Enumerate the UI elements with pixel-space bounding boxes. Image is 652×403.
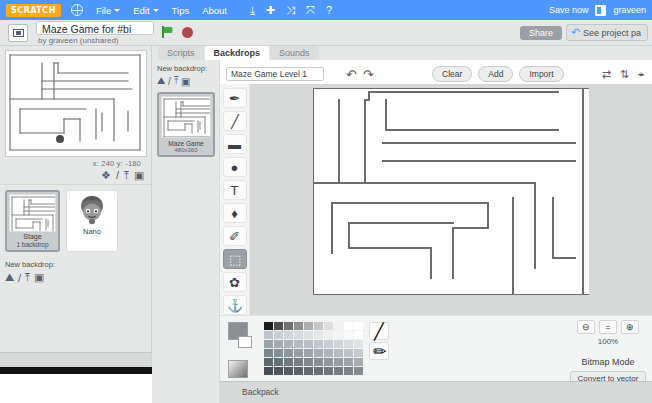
camera-backdrop-icon[interactable]: ▣ — [181, 76, 190, 87]
color-swatch[interactable] — [304, 340, 313, 348]
color-swatch[interactable] — [354, 358, 363, 366]
color-swatch[interactable] — [354, 340, 363, 348]
color-swatch[interactable] — [334, 331, 343, 339]
color-swatch[interactable] — [324, 358, 333, 366]
color-swatch[interactable] — [284, 349, 293, 357]
backdrop-library-icon[interactable]: ⛰ — [157, 75, 165, 87]
upload-backdrop-icon[interactable]: ⤒ — [25, 271, 30, 284]
color-swatch[interactable] — [344, 367, 353, 375]
color-swatch[interactable] — [304, 349, 313, 357]
menu-item-file[interactable]: File — [96, 5, 120, 16]
download-icon[interactable]: ⤓ — [250, 5, 255, 16]
shrink-icon[interactable]: ⤨ — [286, 5, 295, 16]
color-swatch[interactable] — [274, 358, 283, 366]
color-swatch[interactable] — [274, 322, 283, 330]
color-swatch[interactable] — [294, 367, 303, 375]
add-icon[interactable]: ✚ — [266, 5, 275, 16]
color-swatch[interactable] — [274, 331, 283, 339]
ellipse-tool[interactable]: ● — [223, 157, 247, 177]
backdrop-library-icon[interactable]: ⛰ — [5, 271, 14, 284]
tab-scripts[interactable]: Scripts — [158, 46, 204, 60]
color-swatch[interactable] — [304, 322, 313, 330]
backpack-bar[interactable]: Backpack — [220, 381, 652, 403]
see-inside-icon[interactable] — [8, 24, 28, 42]
color-swatch[interactable] — [324, 322, 333, 330]
line-tool[interactable]: ╱ — [223, 111, 247, 131]
costume-name-input[interactable]: Maze Game Level 1 — [226, 67, 324, 81]
color-swatch[interactable] — [304, 331, 313, 339]
color-swatch[interactable] — [304, 358, 313, 366]
color-swatch[interactable] — [284, 331, 293, 339]
new-sprite-icon[interactable]: ❖ — [101, 170, 111, 181]
user-avatar-icon[interactable] — [595, 5, 606, 16]
color-swatch[interactable] — [334, 358, 343, 366]
paint-sprite-icon[interactable]: / — [116, 170, 119, 181]
color-swatch[interactable] — [264, 340, 273, 348]
paint-backdrop-icon[interactable]: / — [168, 76, 171, 87]
green-flag-icon[interactable] — [161, 26, 174, 39]
color-swatch[interactable] — [274, 340, 283, 348]
menu-item-edit[interactable]: Edit — [133, 5, 158, 16]
color-swatch[interactable] — [344, 322, 353, 330]
color-swatch[interactable] — [264, 367, 273, 375]
stamp-tool[interactable]: ⚓ — [223, 295, 247, 315]
background-color-swatch[interactable] — [238, 336, 252, 348]
color-swatch[interactable] — [314, 331, 323, 339]
stage[interactable] — [5, 50, 147, 157]
color-swatch[interactable] — [284, 322, 293, 330]
zoom-reset-icon[interactable]: = — [599, 320, 617, 334]
color-swatch[interactable] — [284, 358, 293, 366]
set-center-icon[interactable]: ⌖ — [638, 68, 644, 81]
color-swatch[interactable] — [284, 340, 293, 348]
undo-icon[interactable]: ↶ — [346, 68, 357, 81]
fill-tool[interactable]: ♦ — [223, 203, 247, 223]
color-swatch[interactable] — [324, 349, 333, 357]
share-button[interactable]: Share — [520, 26, 562, 40]
help-icon[interactable]: ? — [326, 5, 332, 16]
menu-item-tips[interactable]: Tips — [172, 5, 190, 16]
project-title-input[interactable]: Maze Game for #bi — [36, 21, 154, 35]
color-swatch[interactable] — [344, 331, 353, 339]
color-swatch[interactable] — [304, 367, 313, 375]
color-swatch[interactable] — [314, 340, 323, 348]
color-swatch[interactable] — [314, 358, 323, 366]
color-swatch[interactable] — [334, 340, 343, 348]
color-swatch[interactable] — [324, 367, 333, 375]
color-swatch[interactable] — [294, 340, 303, 348]
menu-item-about[interactable]: About — [202, 5, 227, 16]
color-swatch[interactable] — [284, 367, 293, 375]
color-swatch[interactable] — [324, 340, 333, 348]
color-swatch[interactable] — [294, 349, 303, 357]
upload-backdrop-icon[interactable]: ⤒ — [174, 75, 178, 87]
color-swatch[interactable] — [294, 322, 303, 330]
text-tool[interactable]: T — [223, 180, 247, 200]
color-swatch[interactable] — [334, 322, 343, 330]
clear-button[interactable]: Clear — [432, 66, 472, 82]
line-color-icon[interactable]: ╱ — [369, 322, 389, 340]
save-now-button[interactable]: Save now — [549, 5, 589, 15]
color-swatch[interactable] — [344, 349, 353, 357]
color-swatch[interactable] — [264, 358, 273, 366]
backdrop-item-1[interactable]: 1 Maze Game 480x360 — [157, 92, 215, 157]
reshape-tool[interactable]: ✿ — [223, 272, 247, 292]
tab-backdrops[interactable]: Backdrops — [205, 46, 270, 60]
color-swatch[interactable] — [264, 349, 273, 357]
upload-sprite-icon[interactable]: ⤒ — [124, 170, 129, 181]
color-swatch[interactable] — [354, 349, 363, 357]
scratch-logo[interactable]: SCRATCH — [6, 4, 61, 17]
tab-sounds[interactable]: Sounds — [270, 46, 319, 60]
grow-icon[interactable]: ⤧ — [306, 5, 315, 16]
import-button[interactable]: Import — [519, 66, 563, 82]
color-swatch[interactable] — [334, 349, 343, 357]
brush-tool[interactable]: ✒ — [223, 88, 247, 108]
zoom-out-icon[interactable]: ⊖ — [577, 320, 595, 334]
color-swatch[interactable] — [274, 367, 283, 375]
camera-sprite-icon[interactable]: ▣ — [134, 170, 144, 181]
add-button[interactable]: Add — [478, 66, 513, 82]
color-swatch[interactable] — [274, 349, 283, 357]
color-swatch[interactable] — [344, 340, 353, 348]
color-swatch[interactable] — [354, 322, 363, 330]
color-swatch[interactable] — [314, 349, 323, 357]
sprite-card-nano[interactable]: Nano — [66, 190, 118, 252]
select-tool[interactable]: ⬚ — [223, 249, 247, 269]
